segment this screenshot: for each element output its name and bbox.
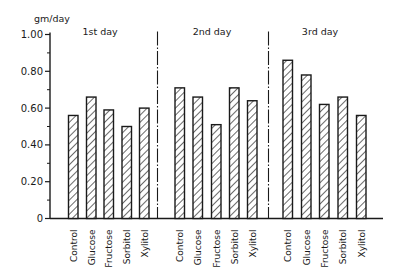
x-category-label: Control xyxy=(69,230,79,263)
x-category-label: Xylitol xyxy=(357,230,367,258)
y-tick-label: 0 xyxy=(37,213,43,224)
x-category-label: Xylitol xyxy=(140,230,150,258)
bar-glucose xyxy=(193,97,203,218)
bars xyxy=(69,60,367,218)
bar-sorbitol xyxy=(230,88,240,219)
x-category-label: Glucose xyxy=(87,229,97,265)
y-axis: 00.200.400.600.801.00gm/day xyxy=(21,13,71,224)
y-tick-label: 0.40 xyxy=(21,139,43,150)
bar-xylitol xyxy=(140,108,150,218)
x-category-label: Control xyxy=(283,230,293,263)
x-category-label: Sorbitol xyxy=(230,230,240,265)
bar-control xyxy=(283,60,293,218)
x-category-label: Control xyxy=(175,230,185,263)
group-label: 2nd day xyxy=(193,26,232,37)
y-tick-label: 1.00 xyxy=(21,29,43,40)
bar-sorbitol xyxy=(122,127,132,219)
x-category-label: Glucose xyxy=(193,229,203,265)
bar-sorbitol xyxy=(338,97,348,218)
y-axis-label: gm/day xyxy=(34,13,70,24)
bar-control xyxy=(175,88,185,219)
x-category-label: Fructose xyxy=(104,229,114,268)
group-label: 3rd day xyxy=(302,26,339,37)
bar-xylitol xyxy=(248,101,258,219)
bar-fructose xyxy=(212,125,222,219)
bar-glucose xyxy=(302,75,312,219)
bar-chart: 00.200.400.600.801.00gm/day 1st dayContr… xyxy=(0,0,403,278)
x-category-label: Xylitol xyxy=(248,230,258,258)
bar-control xyxy=(69,115,79,218)
y-tick-label: 0.80 xyxy=(21,66,43,77)
x-category-label: Fructose xyxy=(320,229,330,268)
x-category-label: Glucose xyxy=(302,229,312,265)
bar-xylitol xyxy=(357,115,367,218)
x-category-label: Fructose xyxy=(212,229,222,268)
x-category-label: Sorbitol xyxy=(338,230,348,265)
x-category-label: Sorbitol xyxy=(122,230,132,265)
y-tick-label: 0.60 xyxy=(21,103,43,114)
y-tick-label: 0.20 xyxy=(21,176,43,187)
bar-fructose xyxy=(104,110,114,219)
bar-glucose xyxy=(87,97,97,218)
bar-fructose xyxy=(320,104,330,218)
group-label: 1st day xyxy=(82,26,118,37)
